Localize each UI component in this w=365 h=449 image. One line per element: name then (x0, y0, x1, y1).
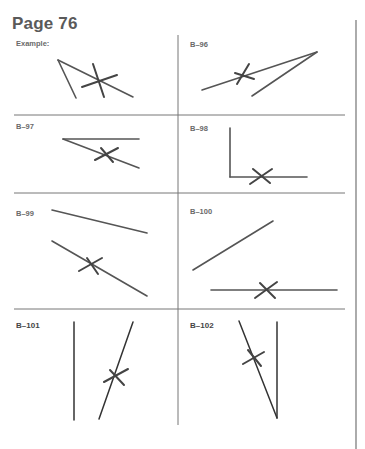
line-segment (58, 60, 76, 98)
line-segment (202, 52, 317, 90)
label-b-100: B–100 (190, 207, 212, 216)
figures-layer (52, 52, 337, 420)
cross-mark (248, 350, 261, 366)
worksheet-canvas (0, 0, 365, 449)
line-segment (193, 221, 273, 270)
figure-b-97 (63, 139, 139, 168)
figure-b-99 (52, 210, 147, 296)
line-segment (99, 322, 133, 419)
line-segment (252, 52, 317, 96)
line-segment (239, 321, 277, 418)
label-b-97: B–97 (16, 122, 34, 131)
line-segment (52, 210, 147, 233)
label-example: Example: (16, 39, 49, 48)
worksheet-grid (14, 20, 356, 449)
figure-example (58, 60, 133, 98)
line-segment (63, 139, 139, 168)
label-b-101: B–101 (16, 321, 40, 330)
label-b-102: B–102 (190, 321, 214, 330)
label-b-99: B–99 (16, 209, 34, 218)
figure-b-101 (74, 322, 133, 420)
line-segment (58, 60, 133, 97)
label-b-98: B–98 (190, 124, 208, 133)
figure-b-100 (193, 221, 337, 298)
figure-b-98 (230, 128, 307, 184)
figure-b-96 (202, 52, 317, 96)
line-segment (52, 241, 147, 296)
label-b-96: B–96 (190, 40, 208, 49)
figure-b-102 (239, 321, 277, 418)
